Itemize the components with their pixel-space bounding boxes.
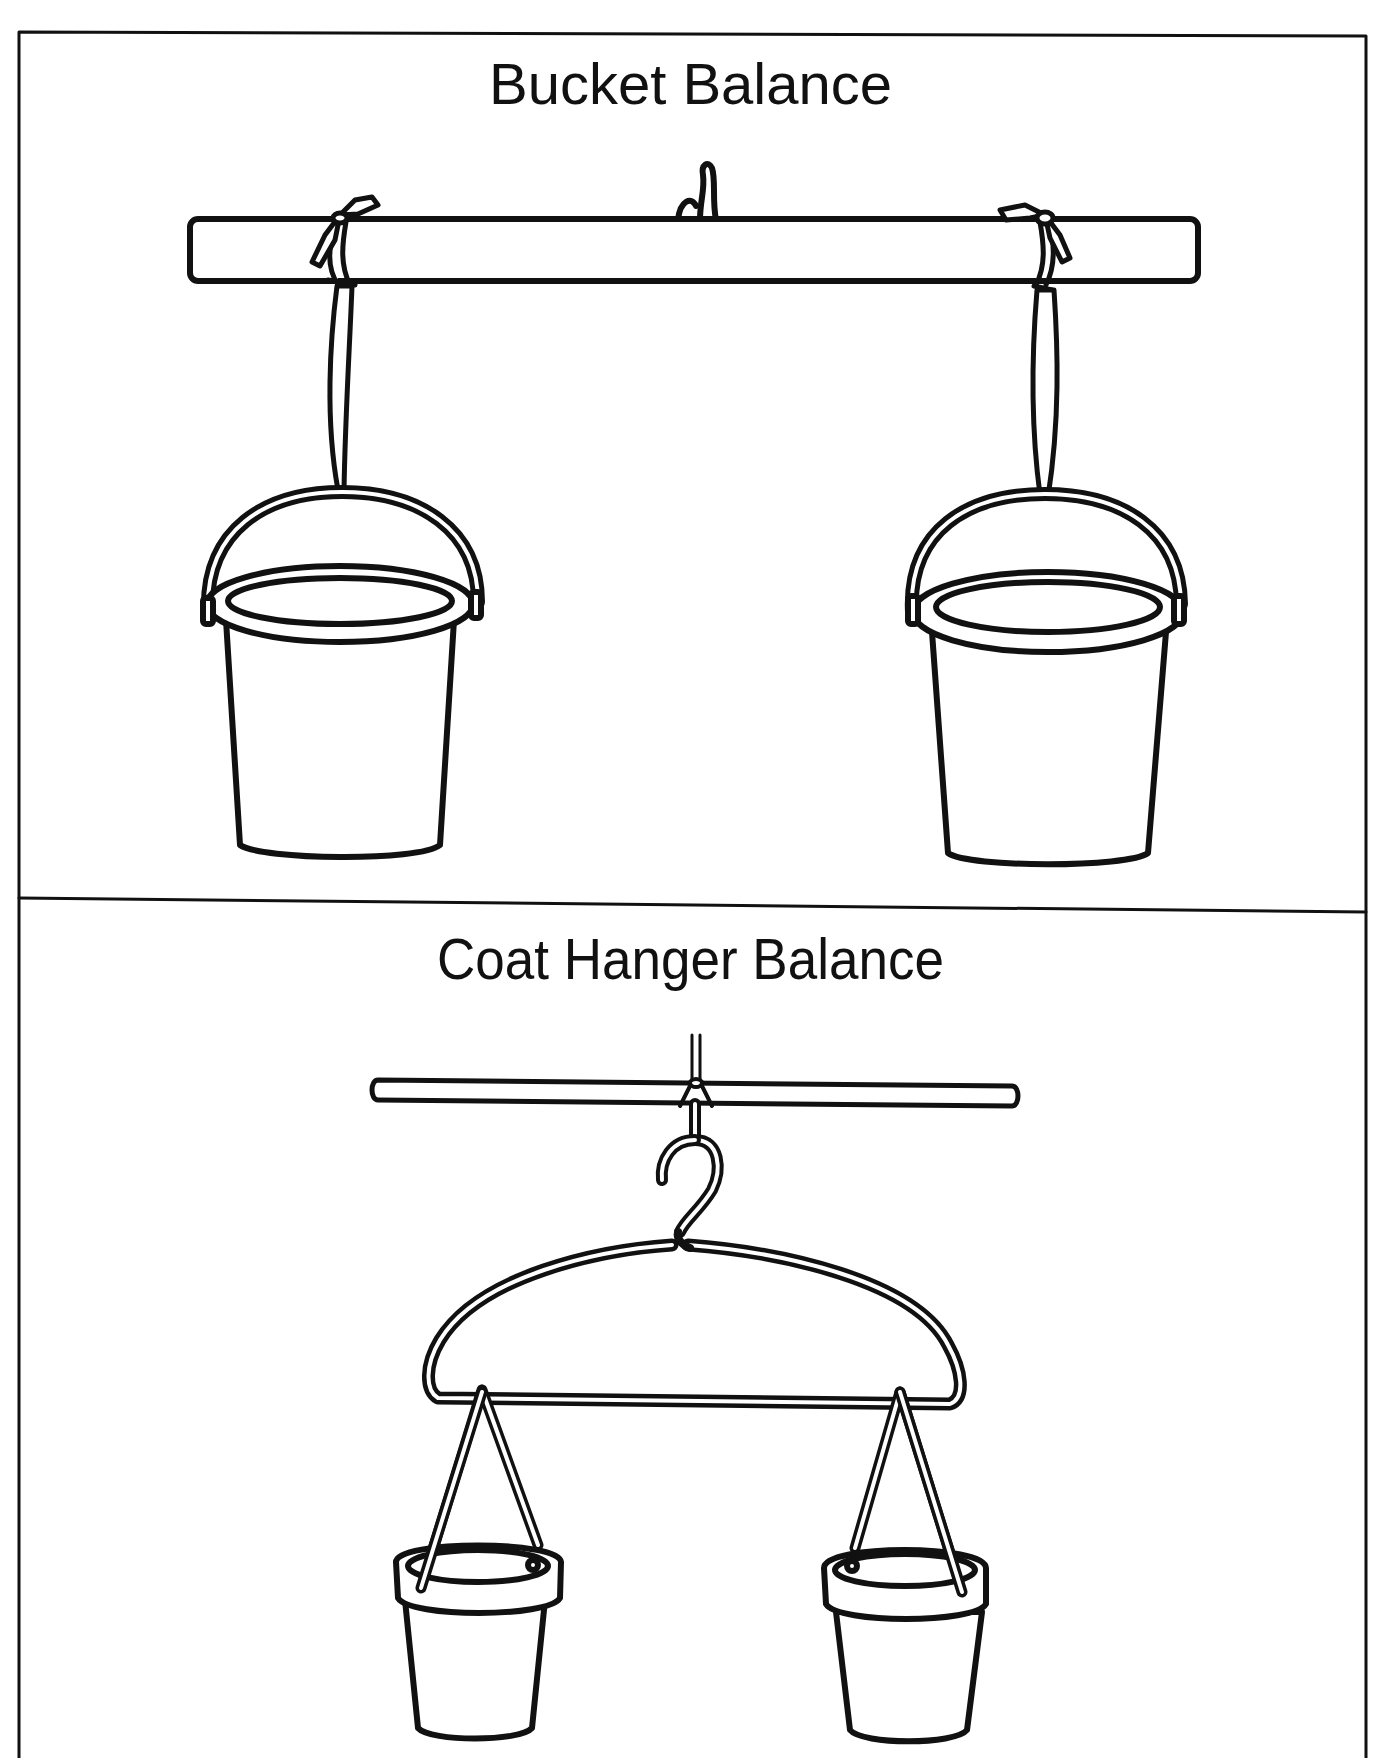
- outer-frame: [19, 32, 1366, 1758]
- wire-coat-hanger-icon: [428, 1232, 960, 1404]
- hanger-hook-icon: [662, 1104, 718, 1232]
- center-hook-icon: [678, 164, 716, 220]
- coat-hanger-balance-diagram: [372, 1035, 1018, 1741]
- panel-title-bucket-balance: Bucket Balance: [0, 52, 1381, 116]
- hanging-string: [692, 1035, 700, 1082]
- left-strap: [330, 286, 352, 492]
- right-small-bucket-icon: [824, 1392, 986, 1741]
- left-small-bucket-icon: [396, 1392, 561, 1739]
- left-bucket-icon: [203, 492, 481, 857]
- illustration-canvas: [0, 0, 1381, 1758]
- panel-title-coat-hanger-balance: Coat Hanger Balance: [48, 927, 1332, 991]
- bucket-balance-diagram: [190, 164, 1198, 864]
- panel-divider: [19, 898, 1366, 912]
- right-bucket-icon: [908, 494, 1184, 864]
- right-strap: [1033, 290, 1057, 497]
